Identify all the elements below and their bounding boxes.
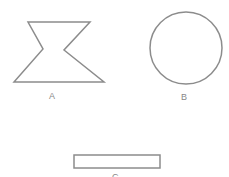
shape-c-rectangle xyxy=(74,155,160,168)
shape-a-hourglass xyxy=(14,22,104,82)
label-c: C xyxy=(112,172,119,177)
label-a: A xyxy=(49,91,55,101)
shape-b-circle xyxy=(150,12,222,84)
label-b: B xyxy=(181,92,187,102)
diagram-canvas xyxy=(0,0,229,177)
